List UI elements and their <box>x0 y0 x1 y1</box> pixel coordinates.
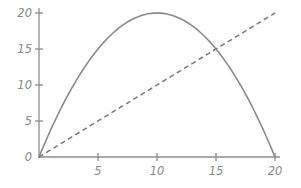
line-chart: 05101520 5101520 <box>0 0 301 188</box>
x-tick-label: 10 <box>150 164 165 178</box>
y-tick-label: 15 <box>17 42 32 56</box>
y-tick-label: 5 <box>25 114 32 128</box>
y-tick-label: 10 <box>17 78 32 92</box>
x-tick-label: 20 <box>268 164 283 178</box>
y-tick-label: 20 <box>17 6 32 20</box>
x-tick-label: 15 <box>209 164 224 178</box>
x-tick-label: 5 <box>94 164 101 178</box>
series-group <box>39 13 275 157</box>
y-tick-label: 0 <box>25 150 32 164</box>
